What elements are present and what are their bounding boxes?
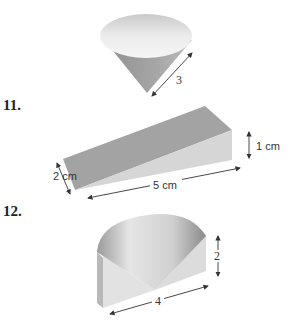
wedge-length-label: 5 cm	[153, 179, 177, 191]
wedge-figure: 1 cm 2 cm 5 cm	[53, 106, 280, 198]
cone-slant-label: 3	[176, 73, 182, 87]
wedge-height-label: 1 cm	[256, 140, 280, 152]
cone-figure: 3	[100, 14, 192, 96]
sector-solid-figure: 2 4	[97, 214, 223, 314]
sector-height-label: 2	[214, 249, 220, 263]
sector-width-label: 4	[155, 294, 161, 308]
wedge-width-label: 2 cm	[53, 170, 77, 182]
figures-canvas: 3 1 cm 2 cm 5 cm 2 4	[0, 0, 290, 330]
